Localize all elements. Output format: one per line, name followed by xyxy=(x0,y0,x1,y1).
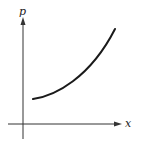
y-axis-label: p xyxy=(19,5,26,18)
function-curve xyxy=(33,29,115,99)
x-axis-label: x xyxy=(125,117,132,130)
y-axis-arrow-icon xyxy=(21,17,26,25)
x-axis-arrow-icon xyxy=(114,122,122,127)
graph-canvas: p x xyxy=(0,0,151,145)
